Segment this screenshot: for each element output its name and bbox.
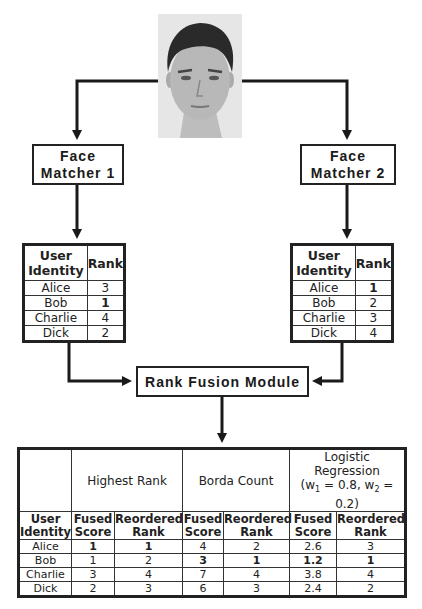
user-identity-header: UserIdentity (19, 512, 72, 540)
identity-cell: Alice (292, 281, 356, 296)
table-row: Alice1 (292, 281, 393, 296)
hr-rank-cell: 2 (115, 554, 183, 568)
face-matcher-1-box: Face Matcher 1 (32, 144, 124, 185)
table-row: Alice3 (24, 281, 125, 296)
user-identity-header: User Identity (292, 245, 356, 281)
header-line: Reordered (224, 513, 289, 526)
matcher-2-line1: Face (311, 148, 385, 165)
fused-score-header: FusedScore (183, 512, 224, 540)
lr-fused-cell: 2.6 (290, 540, 337, 554)
rank-cell: 3 (87, 281, 124, 296)
bc-rank-cell: 2 (224, 540, 290, 554)
lr-fused-cell: 3.8 (290, 568, 337, 582)
reordered-rank-header: ReorderedRank (115, 512, 183, 540)
header-line: Rank (115, 526, 182, 539)
bc-rank-cell: 4 (224, 568, 290, 582)
face-icon (158, 14, 242, 138)
weights-text: (w (301, 478, 316, 492)
matcher-1-rank-table: User Identity Rank Alice3 Bob1 Charlie4 … (22, 243, 126, 343)
header-line: Reordered (115, 513, 182, 526)
bc-fused-cell: 3 (183, 554, 224, 568)
bc-fused-cell: 4 (183, 540, 224, 554)
lr-rank-cell: 1 (337, 554, 406, 568)
header-line: Identity (20, 526, 71, 539)
reordered-rank-header: ReorderedRank (337, 512, 406, 540)
reordered-rank-header: ReorderedRank (224, 512, 290, 540)
header-line: Rank (337, 526, 404, 539)
identity-cell: Dick (24, 326, 88, 342)
table-row: Charlie 3 4 7 4 3.8 4 (19, 568, 406, 582)
hr-fused-cell: 1 (72, 554, 115, 568)
fusion-results-table: Highest Rank Borda Count Logistic Regres… (17, 447, 407, 598)
identity-cell: Dick (19, 582, 72, 597)
table-row: Bob 1 2 3 1 1.2 1 (19, 554, 406, 568)
table-row: Dick 2 3 6 3 2.4 2 (19, 582, 406, 597)
fusion-module-label: Rank Fusion Module (145, 374, 300, 390)
header-line: Rank (224, 526, 289, 539)
fused-score-header: FusedScore (72, 512, 115, 540)
matcher-1-line2: Matcher 1 (41, 165, 115, 182)
logistic-regression-title: Logistic Regression (290, 450, 404, 478)
fused-score-header: FusedScore (290, 512, 337, 540)
hr-fused-cell: 2 (72, 582, 115, 597)
group-header-highest-rank: Highest Rank (72, 449, 183, 512)
header-line: User (293, 248, 355, 263)
rank-cell: 2 (355, 296, 392, 311)
identity-cell: Dick (292, 326, 356, 342)
lr-rank-cell: 4 (337, 568, 406, 582)
identity-cell: Charlie (24, 311, 88, 326)
identity-cell: Bob (292, 296, 356, 311)
face-matcher-2-box: Face Matcher 2 (300, 144, 396, 185)
table-row: Charlie4 (24, 311, 125, 326)
hr-fused-cell: 1 (72, 540, 115, 554)
hr-rank-cell: 3 (115, 582, 183, 597)
header-line: Identity (293, 263, 355, 278)
header-line: Identity (25, 263, 87, 278)
header-line: Fused (290, 513, 336, 526)
lr-fused-cell: 1.2 (290, 554, 337, 568)
table-row: Dick2 (24, 326, 125, 342)
face-photo (158, 14, 242, 138)
hr-rank-cell: 4 (115, 568, 183, 582)
header-line: Score (290, 526, 336, 539)
logistic-regression-weights: (w1 = 0.8, w2 = 0.2) (290, 478, 404, 511)
user-identity-header: User Identity (24, 245, 88, 281)
identity-cell: Alice (24, 281, 88, 296)
header-line: Fused (183, 513, 223, 526)
table-row: Bob1 (24, 296, 125, 311)
header-line: Reordered (337, 513, 404, 526)
matcher-1-line1: Face (41, 148, 115, 165)
rank-fusion-module-box: Rank Fusion Module (136, 366, 309, 397)
rank-cell: 4 (87, 311, 124, 326)
header-line: User (25, 248, 87, 263)
lr-fused-cell: 2.4 (290, 582, 337, 597)
empty-corner-cell (19, 449, 72, 512)
header-line: Score (183, 526, 223, 539)
rank-cell: 4 (355, 326, 392, 342)
group-header-borda-count: Borda Count (183, 449, 290, 512)
matcher-2-rank-table: User Identity Rank Alice1 Bob2 Charlie3 … (290, 243, 394, 343)
header-line: Score (72, 526, 114, 539)
rank-header: Rank (355, 245, 392, 281)
rank-cell: 1 (87, 296, 124, 311)
table-row: Bob2 (292, 296, 393, 311)
lr-rank-cell: 3 (337, 540, 406, 554)
bc-fused-cell: 6 (183, 582, 224, 597)
bc-rank-cell: 1 (224, 554, 290, 568)
rank-cell: 3 (355, 311, 392, 326)
identity-cell: Charlie (292, 311, 356, 326)
rank-cell: 1 (355, 281, 392, 296)
identity-cell: Charlie (19, 568, 72, 582)
header-line: Fused (72, 513, 114, 526)
header-line: User (20, 513, 71, 526)
rank-header: Rank (87, 245, 124, 281)
matcher-2-line2: Matcher 2 (311, 165, 385, 182)
weights-text: = 0.8, w (320, 478, 374, 492)
identity-cell: Bob (24, 296, 88, 311)
group-header-logistic-regression: Logistic Regression (w1 = 0.8, w2 = 0.2) (290, 449, 406, 512)
identity-cell: Alice (19, 540, 72, 554)
hr-rank-cell: 1 (115, 540, 183, 554)
table-row: Dick4 (292, 326, 393, 342)
identity-cell: Bob (19, 554, 72, 568)
table-row: Charlie3 (292, 311, 393, 326)
